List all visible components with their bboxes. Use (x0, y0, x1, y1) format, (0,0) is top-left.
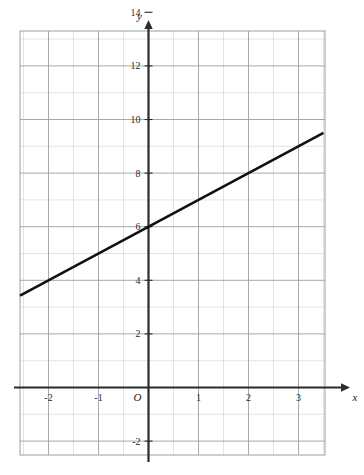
y-tick-label: 2 (136, 328, 141, 339)
y-tick-label: -2 (132, 436, 140, 447)
x-tick-label: 2 (246, 392, 251, 403)
graph-figure: 1412108642-2-2-1123Oxy (0, 0, 364, 475)
y-tick-label: 10 (131, 114, 141, 125)
chart-background (0, 0, 364, 475)
x-axis-label: x (352, 391, 358, 403)
y-tick-label: 4 (136, 275, 141, 286)
origin-label: O (134, 391, 142, 403)
coordinate-plane-chart: 1412108642-2-2-1123Oxy (0, 0, 364, 475)
x-tick-label: -1 (94, 392, 102, 403)
x-tick-label: 3 (296, 392, 301, 403)
y-tick-label: 8 (136, 168, 141, 179)
x-tick-label: 1 (196, 392, 201, 403)
y-tick-label: 6 (136, 221, 141, 232)
x-tick-label: -2 (44, 392, 52, 403)
y-tick-label: 12 (131, 60, 141, 71)
y-axis-label: y (136, 10, 142, 22)
